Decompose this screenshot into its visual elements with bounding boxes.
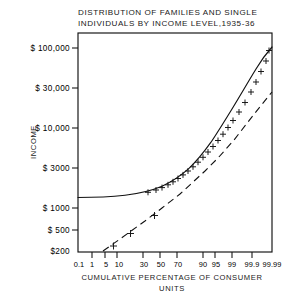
- data-point-marker: [110, 243, 117, 250]
- x-tick-label-5: 5: [104, 260, 108, 269]
- x-tick-label-99-9: 99.9: [245, 260, 260, 269]
- observed-income-curve: [78, 47, 272, 198]
- y-tick-label-3000: $ 3000: [43, 164, 70, 173]
- data-point-marker: [151, 212, 158, 219]
- data-point-marker: [195, 159, 201, 165]
- observed-data-point-markers: [145, 48, 272, 196]
- x-tick-label-10: 10: [115, 260, 123, 269]
- data-point-marker: [236, 109, 242, 115]
- data-point-marker: [253, 79, 259, 85]
- data-point-marker: [210, 144, 216, 150]
- data-point-marker: [230, 118, 236, 124]
- y-tick-label-10000: $ 10,000: [35, 124, 70, 133]
- income-distribution-figure: DISTRIBUTION OF FAMILIES AND SINGLE INDI…: [0, 0, 292, 299]
- x-tick-label-50: 50: [157, 260, 165, 269]
- x-tick-label-95: 95: [212, 260, 220, 269]
- data-point-marker: [242, 100, 248, 106]
- data-point-marker: [190, 164, 196, 170]
- x-axis-title-line-2: UNITS: [159, 284, 185, 293]
- x-tick-label-99-99: 99.99: [263, 260, 282, 269]
- y-tick-label-1000: $ 1000: [43, 204, 70, 213]
- data-point-marker: [127, 230, 134, 237]
- y-axis-title: INCOME: [29, 125, 38, 159]
- chart-canvas: DISTRIBUTION OF FAMILIES AND SINGLE INDI…: [0, 0, 292, 299]
- plot-frame: [78, 33, 272, 252]
- x-axis-title-line-1: CUMULATIVE PERCENTAGE OF CONSUMER: [81, 273, 262, 282]
- x-tick-label-30: 30: [140, 260, 148, 269]
- data-point-marker: [248, 89, 254, 95]
- x-tick-label-70: 70: [174, 260, 182, 269]
- y-tick-label-100000: $ 100,000: [30, 44, 70, 53]
- lognormal-reference-line: [103, 92, 272, 251]
- y-tick-label-500: $ 500: [48, 226, 70, 235]
- data-point-marker: [180, 172, 186, 178]
- data-point-marker: [258, 69, 264, 75]
- x-axis-tickmarks: [92, 252, 252, 258]
- x-tick-label-0-1: 0.1: [74, 260, 85, 269]
- data-point-marker: [225, 125, 231, 131]
- data-point-marker: [220, 131, 226, 137]
- chart-title-line-2: INDIVIDUALS BY INCOME LEVEL,1935-36: [78, 19, 255, 28]
- y-tick-label-30000: $ 30,000: [35, 84, 70, 93]
- reference-line-markers: [110, 212, 158, 250]
- data-point-marker: [175, 176, 181, 182]
- y-axis-tickmarks: [72, 48, 78, 230]
- data-point-marker: [215, 138, 221, 144]
- chart-title-line-1: DISTRIBUTION OF FAMILIES AND SINGLE: [78, 8, 257, 17]
- y-tick-label-200: $200: [50, 247, 70, 256]
- data-point-marker: [185, 168, 191, 174]
- x-tick-label-90: 90: [199, 260, 207, 269]
- x-tick-label-99: 99: [228, 260, 236, 269]
- data-point-marker: [263, 58, 269, 64]
- x-tick-label-1: 1: [90, 260, 94, 269]
